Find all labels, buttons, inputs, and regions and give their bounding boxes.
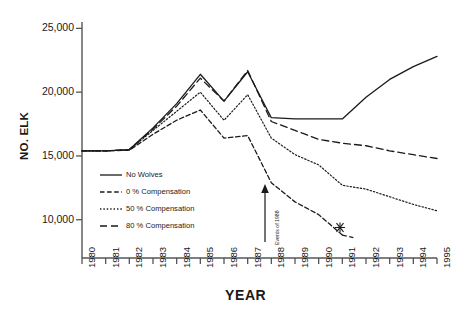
x-tick-label: 1991 bbox=[346, 247, 357, 268]
legend-label-2: 50 % Compensation bbox=[126, 204, 194, 213]
legend-sample-lines bbox=[100, 175, 122, 226]
events-arrow-head bbox=[261, 184, 269, 193]
x-tick-label: 1992 bbox=[370, 247, 381, 268]
y-tick-label: 10,000 bbox=[14, 213, 74, 225]
x-tick-label: 1994 bbox=[417, 247, 428, 268]
annotation-label-0: Events of 1988 bbox=[274, 210, 280, 245]
y-tick-label: 15,000 bbox=[14, 149, 74, 161]
y-tick-label: 25,000 bbox=[14, 21, 74, 33]
x-tick-label: 1995 bbox=[441, 247, 452, 268]
series-line-1 bbox=[82, 110, 342, 235]
x-tick-label: 1982 bbox=[133, 247, 144, 268]
y-axis-ticks bbox=[76, 28, 82, 219]
x-tick-label: 1989 bbox=[299, 247, 310, 268]
x-tick-label: 1981 bbox=[110, 247, 121, 268]
x-axis-title: YEAR bbox=[225, 287, 266, 303]
x-tick-label: 1987 bbox=[252, 247, 263, 268]
legend-label-3: 80 % Compensation bbox=[126, 221, 194, 230]
legend-label-1: 0 % Compensation bbox=[126, 187, 190, 196]
x-tick-label: 1983 bbox=[157, 247, 168, 268]
x-tick-label: 1980 bbox=[86, 247, 97, 268]
series-line-1-tail bbox=[342, 235, 353, 238]
y-tick-label: 20,000 bbox=[14, 85, 74, 97]
legend-label-0: No Wolves bbox=[126, 170, 163, 179]
series-end-asterisk bbox=[335, 223, 345, 233]
x-tick-label: 1986 bbox=[228, 247, 239, 268]
x-tick-label: 1990 bbox=[323, 247, 334, 268]
x-tick-label: 1993 bbox=[394, 247, 405, 268]
x-tick-label: 1988 bbox=[275, 247, 286, 268]
x-tick-label: 1984 bbox=[181, 247, 192, 268]
series-line-0 bbox=[82, 56, 437, 150]
x-tick-label: 1985 bbox=[204, 247, 215, 268]
